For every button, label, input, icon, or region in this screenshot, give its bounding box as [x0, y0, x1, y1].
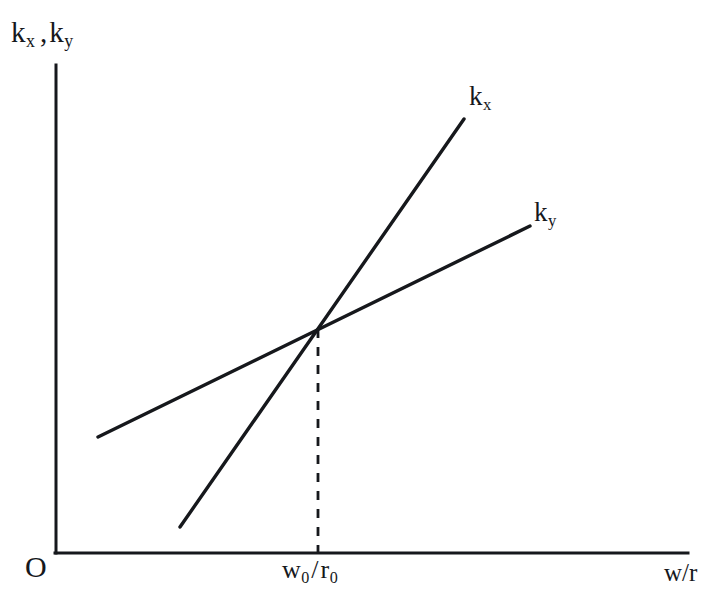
kx-curve [180, 119, 464, 527]
ky-curve-label-base: k [534, 197, 548, 227]
figure-canvas: kx,ky O w/r w0/r0 kx ky [0, 0, 721, 609]
ky-curve-label: ky [534, 199, 556, 226]
x-tick-numerator-sub: 0 [301, 569, 310, 586]
y-axis-title-ky-sub: y [64, 31, 73, 51]
y-axis-title-kx-base: k [11, 16, 26, 48]
y-axis-title-kx-sub: x [26, 31, 35, 51]
kx-curve-label-base: k [469, 81, 483, 111]
ky-curve-label-sub: y [548, 211, 557, 230]
kx-curve-label: kx [469, 83, 491, 110]
kx-curve-label-sub: x [483, 95, 492, 114]
x-tick-denominator-sub: 0 [329, 569, 338, 586]
x-tick-numerator: w [282, 555, 301, 584]
origin-label: O [25, 552, 47, 582]
x-axis-tick-label: w0/r0 [282, 557, 338, 583]
y-axis-title-ky-base: k [49, 16, 64, 48]
x-tick-denominator: r [321, 555, 330, 584]
plot-svg [0, 0, 721, 609]
x-axis-title: w/r [664, 560, 697, 585]
x-tick-slash: / [309, 555, 320, 584]
y-axis-title-separator: , [35, 16, 49, 48]
y-axis-title: kx,ky [11, 18, 73, 47]
ky-curve [98, 226, 530, 437]
